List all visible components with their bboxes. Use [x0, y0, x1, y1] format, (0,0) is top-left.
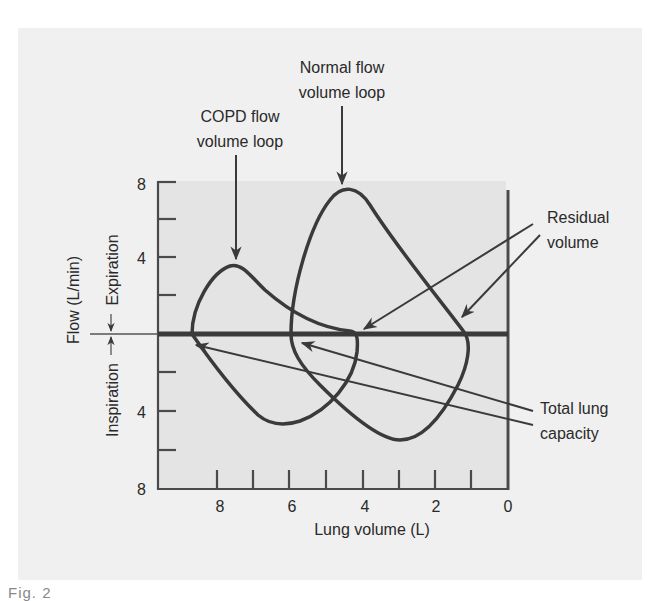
- y-tick-4-top: 4: [137, 250, 146, 267]
- y-tick-8-top: 8: [137, 176, 146, 193]
- copd-loop-label-line1: COPD flow: [200, 108, 280, 125]
- y-tick-4-bottom: 4: [137, 404, 146, 421]
- x-tick-8: 8: [216, 498, 225, 515]
- y-tick-8-bottom: 8: [137, 481, 146, 498]
- x-tick-2: 2: [432, 498, 441, 515]
- residual-volume-label-line2: volume: [547, 234, 599, 251]
- x-tick-6: 6: [288, 498, 297, 515]
- figure-caption: Fig. 2: [8, 584, 52, 601]
- x-tick-4: 4: [361, 498, 370, 515]
- expiration-label: Expiration: [104, 234, 121, 305]
- tlc-label-line1: Total lung: [540, 400, 609, 417]
- x-axis-label: Lung volume (L): [314, 521, 430, 538]
- residual-volume-label-line1: Residual: [547, 209, 609, 226]
- x-tick-0: 0: [504, 498, 513, 515]
- normal-loop-label-line2: volume loop: [299, 84, 385, 101]
- tlc-label-line2: capacity: [540, 425, 599, 442]
- copd-loop-label-line2: volume loop: [197, 133, 283, 150]
- inspiration-label: Inspiration: [104, 363, 121, 437]
- y-axis-label: Flow (L/min): [65, 256, 82, 344]
- normal-loop-label-line1: Normal flow: [300, 59, 385, 76]
